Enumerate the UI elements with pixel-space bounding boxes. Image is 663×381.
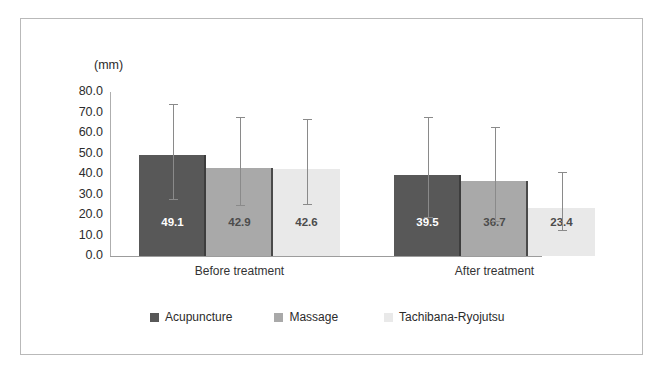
error-bar-cap-lower	[558, 230, 567, 231]
legend-item[interactable]: Massage	[274, 310, 338, 324]
error-bar	[428, 117, 429, 217]
bar-value-label: 42.9	[206, 216, 273, 228]
y-axis-line	[110, 92, 111, 257]
y-axis-tick-label: 80.0	[57, 84, 103, 98]
y-axis-tick-label: 10.0	[57, 228, 103, 242]
legend-label: Tachibana-Ryojutsu	[399, 310, 504, 324]
error-bar-cap-lower	[491, 221, 500, 222]
error-bar-cap-upper	[303, 119, 312, 120]
y-axis-tick-label: 60.0	[57, 125, 103, 139]
error-bar	[562, 172, 563, 230]
y-axis-tick-label: 50.0	[57, 146, 103, 160]
bar-value-label: 49.1	[139, 216, 206, 228]
y-axis-tick-label: 30.0	[57, 187, 103, 201]
error-bar-cap-upper	[169, 104, 178, 105]
y-axis-tick-label: 20.0	[57, 207, 103, 221]
y-axis-tick-label: 0.0	[57, 248, 103, 262]
error-bar-cap-lower	[169, 199, 178, 200]
error-bar-cap-upper	[236, 117, 245, 118]
y-axis-tick-label: 70.0	[57, 105, 103, 119]
legend-item[interactable]: Tachibana-Ryojutsu	[384, 310, 504, 324]
legend-swatch-icon	[274, 313, 283, 322]
legend-item[interactable]: Acupuncture	[150, 310, 232, 324]
bar-value-label: 42.6	[273, 216, 340, 228]
error-bar	[240, 117, 241, 205]
error-bar-cap-upper	[424, 117, 433, 118]
error-bar-cap-upper	[558, 172, 567, 173]
y-axis-tick-label: 40.0	[57, 166, 103, 180]
category-label: After treatment	[394, 264, 595, 278]
legend-label: Massage	[289, 310, 338, 324]
category-label: Before treatment	[139, 264, 340, 278]
error-bar-cap-upper	[491, 127, 500, 128]
error-bar	[307, 119, 308, 204]
legend-swatch-icon	[384, 313, 393, 322]
error-bar-cap-lower	[236, 205, 245, 206]
error-bar-cap-lower	[303, 204, 312, 205]
x-axis-line	[110, 256, 542, 257]
chart-legend: AcupunctureMassageTachibana-Ryojutsu	[150, 310, 505, 324]
error-bar-cap-lower	[424, 217, 433, 218]
error-bar	[495, 127, 496, 221]
legend-swatch-icon	[150, 313, 159, 322]
legend-label: Acupuncture	[165, 310, 232, 324]
error-bar	[173, 104, 174, 198]
